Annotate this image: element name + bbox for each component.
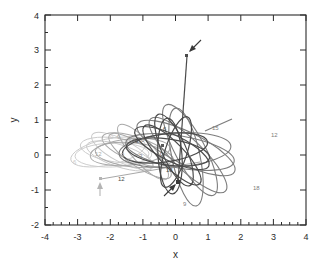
y-tick-label: 1 xyxy=(34,115,39,125)
y-tick-label: -2 xyxy=(31,220,39,230)
figure-container: 0 3 6 9 12 18 0 3 12 15 18 0 3 9 12 0 6 xyxy=(0,0,322,272)
x-tick-label: 1 xyxy=(206,232,211,242)
orbit-trajectory-plot: 0 3 6 9 12 18 0 3 12 15 18 0 3 9 12 0 6 xyxy=(0,0,322,272)
y-tick-label: -1 xyxy=(31,185,39,195)
curve-label-mid-15: 15 xyxy=(212,125,219,131)
y-axis-title: y xyxy=(8,118,19,123)
x-tick-label: 2 xyxy=(238,232,243,242)
marker-top xyxy=(185,54,188,57)
x-tick-label: 0 xyxy=(173,232,178,242)
marker-center xyxy=(161,144,164,147)
x-tick-label: -3 xyxy=(74,232,82,242)
marker-left xyxy=(99,177,102,180)
curve-label-mid-12: 12 xyxy=(271,132,278,138)
y-tick-label: 0 xyxy=(34,150,39,160)
y-tick-label: 3 xyxy=(34,45,39,55)
x-tick-label: -2 xyxy=(106,232,114,242)
curve-label-light-12: 12 xyxy=(95,151,102,157)
x-tick-label: -4 xyxy=(41,232,49,242)
curve-label-dark-18: 18 xyxy=(166,167,173,173)
x-axis-title: x xyxy=(173,249,178,260)
x-tick-label: -1 xyxy=(139,232,147,242)
x-tick-label: 4 xyxy=(303,232,308,242)
y-tick-label: 2 xyxy=(34,80,39,90)
marker-bottom xyxy=(176,180,180,184)
y-tick-label: 4 xyxy=(34,11,39,21)
curve-label-mid-18: 18 xyxy=(253,185,260,191)
x-tick-label: 3 xyxy=(271,232,276,242)
curve-label-dark-12: 12 xyxy=(118,176,125,182)
